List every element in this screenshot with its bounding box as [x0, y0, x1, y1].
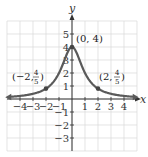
point-marker — [96, 86, 101, 91]
svg-text:−3: −3 — [54, 133, 69, 144]
svg-text:1: 1 — [82, 101, 88, 112]
svg-text:5: 5 — [115, 78, 119, 86]
svg-text:5: 5 — [63, 29, 69, 40]
svg-text:−2: −2 — [54, 120, 69, 131]
axes — [7, 14, 141, 151]
svg-text:2: 2 — [63, 68, 69, 79]
point-marker — [44, 86, 49, 91]
svg-text:−1: −1 — [54, 107, 69, 118]
svg-text:4: 4 — [121, 101, 127, 112]
svg-text:1: 1 — [63, 81, 69, 92]
point-marker — [70, 45, 75, 50]
svg-text:(2,: (2, — [99, 71, 112, 82]
x-axis-label: x — [140, 93, 147, 106]
svg-text:4: 4 — [115, 69, 120, 77]
svg-text:(−2,: (−2, — [12, 71, 34, 82]
function-graph: −4−3−2−11234−3−2−112345 x y (0, 4) (−2, … — [0, 0, 148, 157]
right-point-label: (2, 4 5 ) — [99, 69, 125, 86]
y-axis-label: y — [68, 2, 76, 15]
peak-label: (0, 4) — [76, 33, 103, 44]
svg-text:): ) — [121, 71, 125, 82]
svg-text:2: 2 — [95, 101, 101, 112]
svg-text:3: 3 — [108, 101, 114, 112]
svg-text:): ) — [40, 71, 44, 82]
svg-text:5: 5 — [34, 78, 38, 86]
svg-text:4: 4 — [34, 69, 39, 77]
left-point-label: (−2, 4 5 ) — [12, 69, 44, 86]
